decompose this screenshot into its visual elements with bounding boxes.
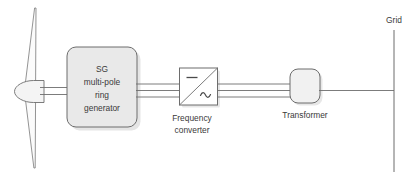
wind-power-conversion-diagram: SG multi-pole ring generator Frequency c… — [0, 0, 419, 175]
diagram-canvas: SG multi-pole ring generator Frequency c… — [0, 0, 419, 175]
grid-bus: Grid — [386, 15, 402, 172]
generator-label-line-1: SG — [96, 64, 108, 74]
wind-turbine — [15, 8, 70, 168]
generator-label-line-4: generator — [84, 103, 120, 113]
generator-label-line-3: ring — [95, 90, 109, 100]
converter-caption-line-2: converter — [175, 125, 210, 135]
turbine-blade-lower-icon — [25, 92, 36, 168]
frequency-converter-block: Frequency converter — [172, 68, 220, 135]
turbine-blade-upper-icon — [25, 8, 37, 90]
generator-label-line-2: multi-pole — [84, 77, 121, 87]
grid-label: Grid — [386, 15, 402, 25]
converter-to-transformer-bus — [217, 84, 291, 97]
converter-caption-line-1: Frequency — [172, 113, 212, 123]
transformer-caption: Transformer — [282, 110, 328, 120]
transformer-block: Transformer — [282, 69, 328, 120]
turbine-hub-icon — [15, 81, 45, 103]
transformer-block-body — [290, 69, 320, 103]
generator-to-converter-bus — [136, 84, 180, 97]
generator-block-body — [67, 47, 137, 127]
generator-block: SG multi-pole ring generator — [67, 47, 141, 131]
